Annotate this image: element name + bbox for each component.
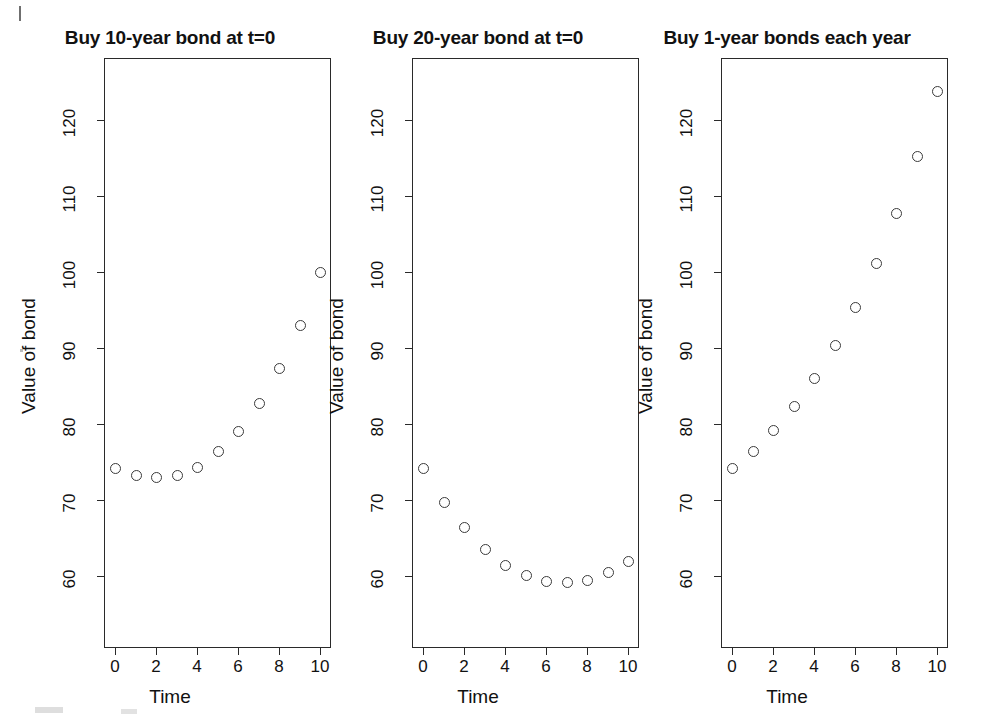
panel-10-year: Buy 10-year bond at t=0 Value of bond 60… [0,0,340,723]
data-point [603,567,614,578]
data-point [830,340,841,351]
data-point [192,462,203,473]
data-point [582,575,593,586]
panel-1-year: Buy 1-year bonds each year Value of bond… [617,0,957,723]
data-point [459,522,470,533]
figure-canvas: Buy 10-year bond at t=0 Value of bond 60… [0,0,990,723]
data-point [151,472,162,483]
data-point [562,577,573,588]
data-points [308,0,648,723]
data-point [789,401,800,412]
data-point [809,373,820,384]
data-point [541,576,552,587]
data-point [110,463,121,474]
data-points [0,0,340,723]
data-point [500,560,511,571]
data-point [274,363,285,374]
data-point [172,470,183,481]
data-point [213,446,224,457]
data-point [131,470,142,481]
data-point [932,86,943,97]
data-point [254,398,265,409]
data-point [850,302,861,313]
data-point [912,151,923,162]
data-point [768,425,779,436]
data-points [617,0,957,723]
data-point [727,463,738,474]
data-point [748,446,759,457]
panel-20-year: Buy 20-year bond at t=0 Value of bond 60… [308,0,648,723]
data-point [521,570,532,581]
data-point [295,320,306,331]
data-point [418,463,429,474]
data-point [891,208,902,219]
data-point [871,258,882,269]
data-point [439,497,450,508]
data-point [233,426,244,437]
data-point [480,544,491,555]
